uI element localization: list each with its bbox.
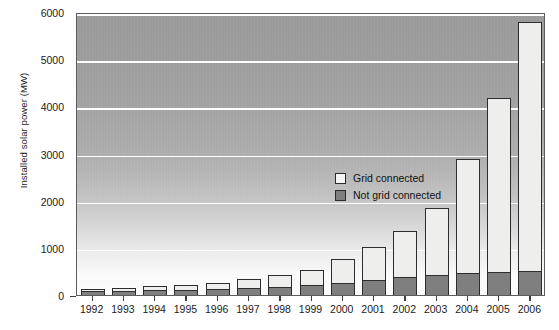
y-axis-tick-label: 3000 <box>41 149 64 161</box>
bar-segment-grid-connected <box>456 159 480 273</box>
x-axis-tick <box>467 296 468 301</box>
x-axis-tick-label: 1992 <box>80 303 103 315</box>
x-axis-tick <box>248 296 249 301</box>
x-axis-tick <box>436 296 437 301</box>
bar-2005 <box>487 98 511 295</box>
x-axis-tick-label: 1999 <box>299 303 322 315</box>
bar-2000 <box>331 259 355 295</box>
bars-layer <box>77 14 544 295</box>
x-axis-tick <box>311 296 312 301</box>
y-axis-tick-label: 4000 <box>41 101 64 113</box>
bar-segment-grid-connected <box>425 208 449 275</box>
x-axis-ticks <box>76 296 545 302</box>
bar-2006 <box>518 22 542 295</box>
chart-legend: Grid connected Not grid connected <box>335 172 441 206</box>
y-axis-tick-labels: 0100020003000400050006000 <box>0 0 72 330</box>
bar-1997 <box>237 279 261 295</box>
bar-2002 <box>393 231 417 295</box>
x-axis-tick-label: 2005 <box>486 303 509 315</box>
legend-label-grid-connected: Grid connected <box>353 172 424 184</box>
bar-segment-not-grid-connected <box>393 277 417 295</box>
bar-1992 <box>81 289 105 295</box>
bar-segment-not-grid-connected <box>300 285 324 295</box>
x-axis-tick <box>154 296 155 301</box>
bar-segment-not-grid-connected <box>425 275 449 295</box>
x-axis-tick <box>529 296 530 301</box>
bar-segment-not-grid-connected <box>112 291 136 295</box>
bar-segment-grid-connected <box>237 279 261 287</box>
legend-swatch-grid-connected <box>335 173 346 184</box>
bar-segment-not-grid-connected <box>143 290 167 295</box>
legend-label-not-grid-connected: Not grid connected <box>353 189 441 201</box>
bar-1998 <box>268 275 292 295</box>
y-axis-tick-label: 1000 <box>41 243 64 255</box>
y-axis-tick-label: 6000 <box>41 7 64 19</box>
x-axis-tick <box>373 296 374 301</box>
y-axis-tick-label: 0 <box>58 290 64 302</box>
bar-2004 <box>456 159 480 295</box>
x-axis-tick-label: 2006 <box>518 303 541 315</box>
bar-segment-not-grid-connected <box>331 283 355 295</box>
bar-segment-not-grid-connected <box>456 273 480 295</box>
x-axis-tick <box>92 296 93 301</box>
legend-item-not-grid-connected: Not grid connected <box>335 189 441 201</box>
bar-segment-not-grid-connected <box>362 280 386 295</box>
x-axis-tick-label: 2000 <box>330 303 353 315</box>
x-axis-tick-label: 2001 <box>361 303 384 315</box>
bar-1995 <box>174 285 198 295</box>
x-axis-tick-label: 1995 <box>174 303 197 315</box>
bar-segment-not-grid-connected <box>518 271 542 295</box>
bar-segment-grid-connected <box>300 270 324 285</box>
x-axis-tick-label: 1993 <box>111 303 134 315</box>
x-axis-tick <box>217 296 218 301</box>
bar-segment-not-grid-connected <box>268 287 292 295</box>
bar-segment-not-grid-connected <box>237 288 261 295</box>
x-axis-tick-label: 1996 <box>205 303 228 315</box>
bar-1994 <box>143 286 167 295</box>
bar-segment-grid-connected <box>518 22 542 271</box>
x-axis-tick-label: 2002 <box>393 303 416 315</box>
x-axis-tick <box>279 296 280 301</box>
x-axis-tick <box>404 296 405 301</box>
x-axis-tick <box>342 296 343 301</box>
bar-segment-not-grid-connected <box>487 272 511 295</box>
bar-1999 <box>300 270 324 295</box>
x-axis-tick-label: 2004 <box>455 303 478 315</box>
bar-segment-grid-connected <box>393 231 417 277</box>
bar-1996 <box>206 283 230 295</box>
solar-power-bar-chart: Installed solar power (MW) 0100020003000… <box>0 0 559 330</box>
bar-2003 <box>425 208 449 295</box>
bar-segment-not-grid-connected <box>174 290 198 295</box>
plot-area: Grid connected Not grid connected <box>76 13 545 296</box>
x-axis-tick-label: 2003 <box>424 303 447 315</box>
bar-1993 <box>112 288 136 295</box>
bar-segment-not-grid-connected <box>81 291 105 295</box>
bar-2001 <box>362 247 386 295</box>
x-axis-tick-label: 1997 <box>236 303 259 315</box>
legend-swatch-not-grid-connected <box>335 190 346 201</box>
x-axis-tick-labels: 1992199319941995199619971998199920002001… <box>76 303 545 323</box>
y-axis-tick-label: 2000 <box>41 196 64 208</box>
bar-segment-grid-connected <box>331 259 355 283</box>
bar-segment-grid-connected <box>268 275 292 287</box>
x-axis-tick-label: 1994 <box>142 303 165 315</box>
x-axis-tick-label: 1998 <box>268 303 291 315</box>
x-axis-tick <box>123 296 124 301</box>
x-axis-tick <box>185 296 186 301</box>
y-axis-tick-label: 5000 <box>41 54 64 66</box>
bar-segment-not-grid-connected <box>206 289 230 295</box>
bar-segment-grid-connected <box>487 98 511 272</box>
legend-item-grid-connected: Grid connected <box>335 172 441 184</box>
x-axis-tick <box>498 296 499 301</box>
bar-segment-grid-connected <box>362 247 386 280</box>
